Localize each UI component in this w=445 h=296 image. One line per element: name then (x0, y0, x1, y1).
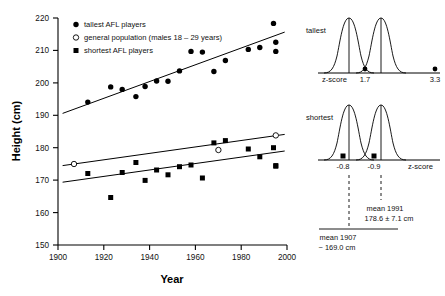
data-point (223, 58, 228, 63)
y-tick-label: 180 (35, 144, 49, 153)
panel-tallest-marker-2 (433, 67, 438, 72)
data-point (223, 138, 228, 143)
data-point (177, 164, 182, 169)
annotation-mean-1907-line1: mean 1907 (320, 233, 357, 242)
data-point (166, 172, 171, 177)
data-point (246, 47, 251, 52)
data-point (108, 195, 113, 200)
x-tick-label: 1960 (186, 253, 205, 262)
panel-shortest: shortest -0.8 -0.9 z-score (306, 105, 440, 171)
data-point (271, 145, 276, 150)
panel-shortest-marker-1 (341, 154, 346, 159)
data-point (211, 140, 216, 145)
legend: tallest AFL players general population (… (73, 20, 222, 55)
figure-canvas: 150 160 170 180 190 200 210 220 1900 192… (0, 0, 445, 296)
legend-label-tallest: tallest AFL players (84, 20, 146, 29)
trendline-general-population (63, 134, 285, 165)
panel-tallest-label: tallest (306, 26, 327, 35)
x-tick-label: 1940 (140, 253, 159, 262)
data-point (200, 49, 205, 54)
trendline-shortest (63, 151, 285, 182)
panel-tallest-axis-label: z-score (322, 75, 347, 84)
annotation-mean-1991-line1: mean 1991 (367, 204, 404, 213)
data-point (143, 178, 148, 183)
panel-tallest-tick-2: 3.3 (430, 75, 441, 84)
data-point (133, 160, 138, 165)
x-tick-label: 1900 (49, 253, 68, 262)
legend-label-general-population: general population (males 18 – 29 years) (84, 33, 223, 42)
data-point (188, 49, 193, 54)
data-point (85, 171, 90, 176)
data-point (257, 45, 262, 50)
data-point (154, 168, 159, 173)
y-tick-label: 170 (35, 176, 49, 185)
y-tick-label: 150 (35, 241, 49, 250)
annotation-mean-1907-line2: ~ 169.0 cm (319, 243, 356, 252)
y-tick-label: 200 (35, 79, 49, 88)
y-axis-tick-labels: 150 160 170 180 190 200 210 220 (35, 14, 49, 250)
data-point (257, 154, 262, 159)
main-scatter-plot: 150 160 170 180 190 200 210 220 1900 192… (10, 14, 297, 285)
panel-tallest: tallest z-score 1.7 3.3 (306, 18, 440, 84)
legend-marker-filled-square (74, 48, 79, 53)
panel-shortest-axis-label: z-score (408, 162, 433, 171)
y-tick-label: 190 (35, 111, 49, 120)
data-point (108, 84, 113, 89)
series-shortest-afl-players (85, 138, 278, 200)
y-tick-label: 210 (35, 46, 49, 55)
data-point (71, 161, 76, 166)
data-point (120, 87, 125, 92)
data-point (189, 163, 194, 168)
data-point (216, 147, 221, 152)
annotation-group: mean 1991 178.6 ± 7.1 cm mean 1907 ~ 169… (319, 175, 414, 252)
data-point (165, 79, 170, 84)
data-point (273, 164, 278, 169)
data-point (120, 170, 125, 175)
x-tick-label: 1980 (232, 253, 251, 262)
panel-shortest-tick-1: -0.8 (336, 162, 349, 171)
data-point (177, 68, 182, 73)
data-point (273, 49, 278, 54)
panel-shortest-label: shortest (306, 113, 334, 122)
annotation-mean-1991-line2: 178.6 ± 7.1 cm (365, 214, 414, 223)
data-point (273, 133, 278, 138)
data-point (246, 147, 251, 152)
y-tick-label: 220 (35, 14, 49, 23)
x-axis-tick-labels: 1900 1920 1940 1960 1980 2000 (49, 253, 297, 262)
data-point (154, 78, 159, 83)
panel-tallest-marker-1 (363, 67, 368, 72)
trendline-tallest (63, 32, 285, 113)
figure-root: 150 160 170 180 190 200 210 220 1900 192… (0, 0, 445, 296)
data-point (133, 94, 138, 99)
legend-marker-open-circle (73, 35, 78, 40)
legend-marker-filled-circle (73, 22, 78, 27)
panel-tallest-tick-1: 1.7 (360, 75, 371, 84)
data-point (271, 21, 276, 26)
data-point (200, 176, 205, 181)
y-axis-title: Height (cm) (10, 100, 22, 161)
legend-label-shortest: shortest AFL players (84, 46, 153, 55)
data-point (85, 99, 90, 104)
x-axis-ticks (58, 245, 287, 250)
data-point (211, 69, 216, 74)
y-tick-label: 160 (35, 209, 49, 218)
panel-shortest-marker-2 (372, 154, 377, 159)
y-axis-ticks (53, 18, 58, 245)
data-point (142, 84, 147, 89)
data-point (273, 40, 278, 45)
x-axis-title: Year (160, 273, 184, 285)
x-tick-label: 2000 (278, 253, 297, 262)
panel-shortest-tick-2: -0.9 (367, 162, 380, 171)
x-tick-label: 1920 (95, 253, 114, 262)
